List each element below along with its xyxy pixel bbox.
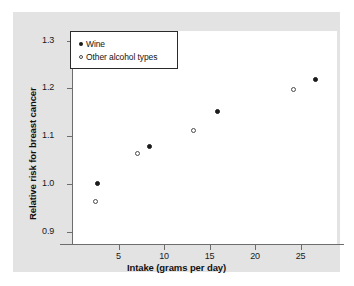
data-point-wine <box>215 109 220 114</box>
legend-item-wine: Wine <box>76 37 171 50</box>
y-axis-title: Relative risk for breast cancer <box>27 87 38 220</box>
y-tick-label: 1.0 <box>42 178 54 188</box>
y-tick-label: 1.2 <box>42 82 54 92</box>
x-tick-mark <box>255 245 256 250</box>
x-tick-mark <box>301 245 302 250</box>
x-tick-label: 25 <box>289 251 313 261</box>
data-point-wine <box>313 77 318 82</box>
x-tick-label: 20 <box>243 251 267 261</box>
y-tick-label: 1.1 <box>42 130 54 140</box>
y-tick-label: 1.3 <box>42 35 54 45</box>
y-tick-mark <box>67 88 72 89</box>
x-tick-mark <box>164 245 165 250</box>
chart-legend: Wine Other alcohol types <box>70 31 178 69</box>
y-tick-label: 0.9 <box>42 226 54 236</box>
x-tick-mark <box>119 245 120 250</box>
x-tick-label: 15 <box>198 251 222 261</box>
legend-label-other-alcohol: Other alcohol types <box>86 52 157 62</box>
figure-panel: 0.91.01.11.21.3 510152025 Wine Other alc… <box>13 12 340 272</box>
legend-item-other-alcohol: Other alcohol types <box>76 50 171 63</box>
y-tick-mark <box>67 136 72 137</box>
legend-label-wine: Wine <box>86 39 105 49</box>
y-tick-mark <box>67 184 72 185</box>
y-tick-mark <box>67 232 72 233</box>
filled-circle-icon <box>76 42 86 46</box>
data-point-wine <box>95 181 100 186</box>
data-point-other <box>93 199 98 204</box>
x-tick-label: 10 <box>152 251 176 261</box>
data-point-other <box>135 151 140 156</box>
x-tick-mark <box>210 245 211 250</box>
x-tick-label: 5 <box>107 251 131 261</box>
open-circle-icon <box>76 55 86 59</box>
x-axis-title: Intake (grams per day) <box>13 262 340 273</box>
